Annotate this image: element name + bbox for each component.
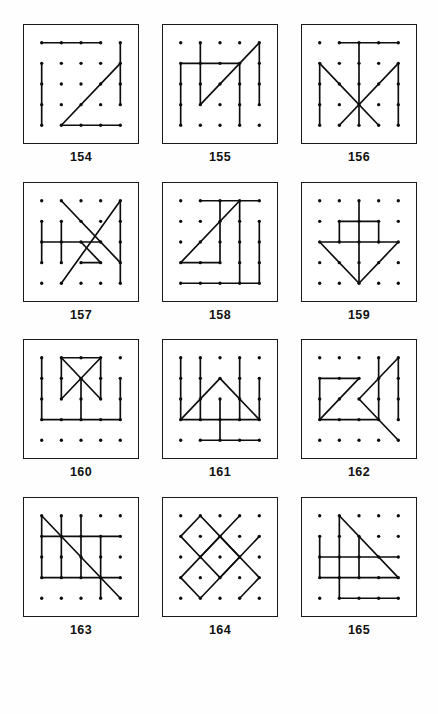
grid-dot (199, 62, 202, 65)
grid-dot (199, 260, 202, 263)
grid-dot (119, 219, 122, 222)
grid-dot (40, 199, 43, 202)
grid-dot (258, 281, 261, 284)
grid-dot (258, 439, 261, 442)
dot-grid-figure (162, 339, 278, 459)
grid-dot (40, 124, 43, 127)
figure-segment (339, 515, 398, 577)
grid-dot (99, 260, 102, 263)
figure-canvas (24, 183, 138, 301)
panel-label: 154 (70, 151, 92, 164)
grid-dot (218, 124, 221, 127)
grid-dot (377, 418, 380, 421)
grid-dot (119, 240, 122, 243)
grid-dot (40, 377, 43, 380)
grid-dot (258, 103, 261, 106)
grid-dot (397, 439, 400, 442)
grid-dot (199, 82, 202, 85)
grid-dot (119, 260, 122, 263)
puzzle-panel: 161 (159, 339, 281, 479)
grid-dot (79, 41, 82, 44)
grid-dot (40, 534, 43, 537)
grid-dot (397, 397, 400, 400)
panel-label: 156 (348, 151, 370, 164)
grid-dot (258, 534, 261, 537)
figure-canvas (302, 340, 416, 458)
grid-dot (79, 82, 82, 85)
grid-dot (338, 356, 341, 359)
panel-row: 157 158 159 (0, 182, 438, 322)
grid-dot (338, 439, 341, 442)
grid-dot (119, 281, 122, 284)
grid-dot (377, 240, 380, 243)
grid-dot (199, 124, 202, 127)
dot-grid-figure (162, 497, 278, 617)
grid-dot (318, 555, 321, 558)
grid-dot (318, 439, 321, 442)
panel-label: 155 (209, 151, 231, 164)
grid-dot (218, 62, 221, 65)
grid-dot (179, 41, 182, 44)
grid-dot (179, 62, 182, 65)
grid-dot (238, 41, 241, 44)
grid-dot (179, 439, 182, 442)
grid-dot (318, 596, 321, 599)
grid-dot (318, 62, 321, 65)
grid-dot (179, 555, 182, 558)
grid-dot (179, 596, 182, 599)
grid-dot (179, 103, 182, 106)
grid-dot (258, 575, 261, 578)
grid-dot (338, 199, 341, 202)
grid-dot (79, 356, 82, 359)
grid-dot (338, 377, 341, 380)
grid-dot (99, 397, 102, 400)
grid-dot (179, 534, 182, 537)
grid-dot (338, 575, 341, 578)
grid-dot (79, 219, 82, 222)
grid-dot (258, 377, 261, 380)
figure-canvas (24, 498, 138, 616)
puzzle-panel: 157 (20, 182, 142, 322)
grid-dot (218, 240, 221, 243)
grid-dot (79, 575, 82, 578)
panel-label: 157 (70, 309, 92, 322)
figure-canvas (163, 498, 277, 616)
grid-dot (377, 41, 380, 44)
figure-segment (200, 557, 220, 578)
dot-grid-figure (301, 182, 417, 302)
grid-dot (357, 439, 360, 442)
grid-dot (218, 575, 221, 578)
grid-dot (338, 397, 341, 400)
grid-dot (338, 555, 341, 558)
grid-dot (357, 199, 360, 202)
grid-dot (60, 103, 63, 106)
figure-canvas (163, 340, 277, 458)
grid-dot (179, 124, 182, 127)
figure-segment (200, 515, 220, 536)
grid-dot (79, 103, 82, 106)
grid-dot (377, 575, 380, 578)
grid-dot (397, 596, 400, 599)
grid-dot (79, 555, 82, 558)
grid-dot (377, 260, 380, 263)
grid-dot (40, 575, 43, 578)
grid-dot (79, 62, 82, 65)
figure-canvas (302, 183, 416, 301)
grid-dot (218, 281, 221, 284)
figure-canvas (302, 25, 416, 143)
panel-row: 160 161 162 (0, 339, 438, 479)
panel-label: 160 (70, 466, 92, 479)
grid-dot (218, 534, 221, 537)
grid-dot (318, 356, 321, 359)
grid-dot (99, 103, 102, 106)
figure-canvas (24, 25, 138, 143)
panel-row: 154 155 156 (0, 24, 438, 164)
grid-dot (79, 596, 82, 599)
grid-dot (318, 82, 321, 85)
panel-label: 165 (348, 624, 370, 637)
grid-dot (218, 377, 221, 380)
grid-dot (119, 418, 122, 421)
grid-dot (238, 281, 241, 284)
grid-dot (179, 240, 182, 243)
grid-dot (397, 418, 400, 421)
